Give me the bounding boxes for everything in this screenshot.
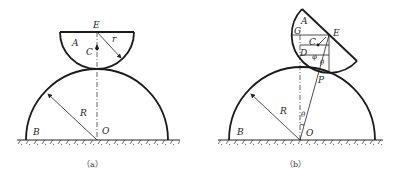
label-B-b: B <box>236 127 244 137</box>
radius-R-arrow-a <box>48 94 97 140</box>
label-G-b: G <box>294 26 301 36</box>
diagram-canvas: E A C r R B O （a） A G E C <box>0 0 393 179</box>
caption-a: （a） <box>82 160 103 169</box>
label-E-a: E <box>92 20 100 30</box>
label-O-a: O <box>102 126 110 136</box>
label-E-b: E <box>332 28 340 38</box>
label-phi-b: φ <box>312 53 317 61</box>
label-C-b: C <box>309 37 316 47</box>
label-P-b: P <box>317 75 325 85</box>
radius-r-arrow <box>97 32 121 58</box>
hemisphere-b-b <box>229 67 375 140</box>
label-R-a: R <box>79 108 87 118</box>
ground-hatch-b <box>218 140 383 145</box>
label-D-b: D <box>299 48 307 58</box>
label-theta-top-b: θ <box>320 59 325 67</box>
label-R-b: R <box>279 106 287 116</box>
figure-b: A G E C D φ θ P R θ B O （b） <box>218 9 383 169</box>
radius-R-arrow-b <box>251 94 300 140</box>
label-A-a: A <box>71 38 79 48</box>
label-B-a: B <box>32 127 40 137</box>
label-O-b: O <box>306 128 314 138</box>
figure-a: E A C r R B O （a） <box>17 20 180 169</box>
label-theta-bottom-b: θ <box>301 111 306 119</box>
ground-hatch-a <box>17 140 180 145</box>
label-r-a: r <box>112 34 117 44</box>
caption-b: （b） <box>285 160 306 169</box>
label-C-a: C <box>86 47 93 57</box>
label-A-b: A <box>300 16 308 26</box>
